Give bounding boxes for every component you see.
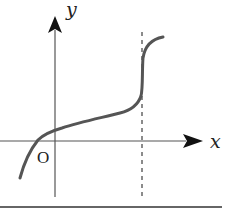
origin-label: O — [37, 148, 49, 167]
y-axis-label: y — [65, 0, 77, 20]
x-axis-label: x — [210, 130, 221, 152]
function-graph-diagram: y x O — [0, 0, 239, 216]
